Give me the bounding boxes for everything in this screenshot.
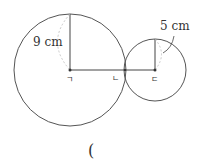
point-label-tangent: ㄴ <box>112 74 119 83</box>
point-label-big-center: ㄱ <box>66 75 73 84</box>
small-radius-label: 5 cm <box>160 19 190 33</box>
big-center-dot <box>69 69 72 72</box>
point-label-small-center: ㄷ <box>151 75 158 84</box>
big-radius-label: 9 cm <box>33 35 63 49</box>
two-circles-diagram: 9 cm 5 cm ㄱ ㄴ ㄷ ( <box>0 0 217 164</box>
small-center-dot <box>154 69 157 72</box>
tangent-dot <box>124 69 126 71</box>
small-radius-arc <box>155 39 162 70</box>
answer-paren: ( <box>88 141 94 160</box>
